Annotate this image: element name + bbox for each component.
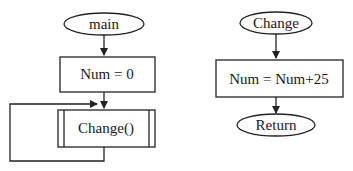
num-zero-process: Num = 0: [60, 57, 155, 92]
return-terminator-label: Return: [256, 117, 297, 133]
change-terminator-label: Change: [253, 15, 299, 31]
flowchart-canvas: main Num = 0 Change() Change Num = Num+2…: [0, 0, 353, 171]
increment-process: Num = Num+25: [216, 60, 343, 97]
main-terminator: main: [64, 13, 144, 35]
increment-label: Num = Num+25: [229, 71, 328, 87]
change-call-predefined-process: Change(): [58, 110, 155, 147]
return-terminator: Return: [237, 114, 315, 136]
num-zero-label: Num = 0: [80, 66, 133, 82]
change-call-label: Change(): [78, 120, 134, 137]
main-terminator-label: main: [89, 16, 119, 32]
change-terminator: Change: [240, 12, 312, 34]
